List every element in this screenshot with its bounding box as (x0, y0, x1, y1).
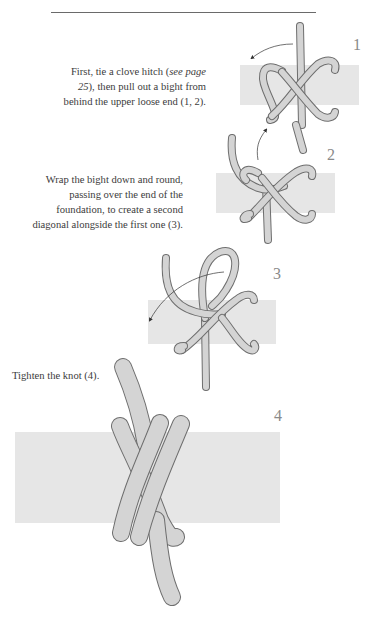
arrow-icon (252, 44, 293, 58)
knot-illustrations (0, 0, 373, 624)
arrow-icon (257, 130, 266, 160)
step-3-figure (148, 251, 276, 387)
step-2-figure (216, 125, 335, 240)
step-4-figure (15, 367, 280, 597)
step-1-figure (240, 26, 359, 125)
